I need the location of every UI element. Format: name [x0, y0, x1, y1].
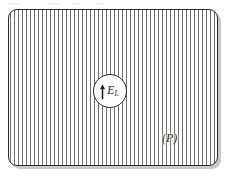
field-callout-circle: EL — [93, 74, 127, 108]
field-symbol: E — [107, 84, 114, 96]
field-subscript: L — [115, 89, 119, 98]
field-callout-content: EL — [99, 83, 118, 100]
plane-label: (P) — [162, 132, 177, 144]
up-arrow-icon — [99, 83, 106, 100]
scan-artifact — [0, 0, 225, 7]
figure-canvas: EL (P) — [0, 0, 225, 175]
field-symbol-label: EL — [107, 85, 118, 98]
